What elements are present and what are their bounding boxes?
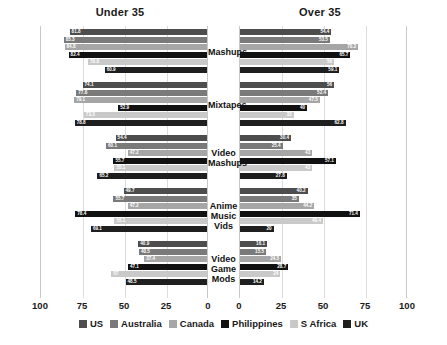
bar-us: 54.4 — [240, 29, 331, 35]
bar-group-mixtapes: 5652.447.5403262.8 — [240, 82, 406, 128]
bar-value-label: 44.2 — [303, 202, 312, 209]
chart-container: Under 35 Over 35 81.885.384.882.470.860.… — [0, 0, 447, 345]
axis-tick: 50 — [318, 300, 329, 311]
bar-value-label: 48.5 — [128, 278, 137, 285]
bar-row: 43 — [240, 165, 406, 171]
bar-value-label: 49.4 — [312, 217, 321, 224]
bar-value-label: 56 — [327, 58, 332, 65]
bar-philippines: 82.4 — [69, 52, 207, 58]
bar-row: 54.4 — [240, 29, 406, 35]
legend-label: Canada — [180, 318, 214, 329]
bar-australia: 60.1 — [106, 143, 207, 149]
bar-value-label: 70.8 — [90, 58, 99, 65]
bar-value-label: 81.8 — [72, 28, 81, 35]
bar-row: 60.1 — [41, 143, 207, 149]
bar-uk: 14.2 — [240, 279, 264, 285]
bar-australia: 52.4 — [240, 90, 328, 96]
bar-value-label: 53.5 — [319, 36, 328, 43]
bar-row: 52.9 — [41, 105, 207, 111]
bar-australia: 53.5 — [240, 37, 330, 43]
bar-s-africa: 43 — [240, 165, 312, 171]
bar-value-label: 49.7 — [126, 187, 135, 194]
bar-us: 74.1 — [83, 82, 207, 88]
bar-group-mixtapes: 74.177.879.152.973.378.8 — [41, 82, 207, 128]
bar-australia: 15.5 — [240, 249, 266, 255]
legend-item-australia[interactable]: Australia — [110, 318, 162, 329]
bar-row: 60.9 — [41, 67, 207, 73]
bar-australia: 35 — [240, 196, 299, 202]
bar-row: 55.7 — [41, 158, 207, 164]
bar-value-label: 24 — [273, 270, 278, 277]
bar-value-label: 32 — [287, 111, 292, 118]
bar-value-label: 62.8 — [335, 119, 344, 126]
bar-value-label: 14.2 — [253, 278, 262, 285]
legend-label: Australia — [121, 318, 162, 329]
bar-canada: 44.2 — [240, 203, 314, 209]
category-label-line: Mixtapes — [208, 100, 239, 110]
category-label-line: Video — [208, 148, 239, 158]
bar-value-label: 15.5 — [255, 248, 264, 255]
bar-s-africa: 49.4 — [240, 218, 323, 224]
bar-row: 20 — [240, 226, 406, 232]
category-label-line: Video Game — [208, 254, 239, 274]
bar-value-label: 55.7 — [115, 195, 124, 202]
legend-item-us[interactable]: US — [79, 318, 103, 329]
bar-philippines: 40 — [240, 105, 307, 111]
bar-row: 84.8 — [41, 44, 207, 50]
bar-row: 69.1 — [41, 226, 207, 232]
chart-legend: USAustraliaCanadaPhilippinesS AfricaUK — [0, 318, 447, 329]
bar-uk: 27.8 — [240, 173, 287, 179]
bar-row: 55.1 — [41, 165, 207, 171]
bar-canada: 47.2 — [128, 203, 207, 209]
legend-item-philippines[interactable]: Philippines — [221, 318, 283, 329]
bar-value-label: 52.9 — [120, 104, 129, 111]
bar-value-label: 74.1 — [85, 81, 94, 88]
bar-s-africa: 70.8 — [88, 59, 207, 65]
bar-value-label: 43 — [305, 164, 310, 171]
bar-value-label: 47.2 — [130, 149, 139, 156]
bar-row: 56 — [240, 82, 406, 88]
bar-row: 71.4 — [240, 211, 406, 217]
bar-uk: 20 — [240, 226, 274, 232]
bar-uk: 69.1 — [91, 226, 207, 232]
bar-group-mashups: 54.453.570.365.75659.1 — [240, 29, 406, 75]
axis-tick: 75 — [77, 300, 88, 311]
bar-row: 24.5 — [240, 256, 406, 262]
bar-uk: 78.8 — [75, 120, 207, 126]
bar-row: 32 — [240, 112, 406, 118]
bar-value-label: 40.5 — [141, 248, 150, 255]
axis-tick: 100 — [399, 300, 415, 311]
bar-canada: 43 — [240, 150, 312, 156]
bar-group-mashups: 81.885.384.882.470.860.9 — [41, 29, 207, 75]
bar-row: 27.8 — [240, 173, 406, 179]
bar-value-label: 69.1 — [93, 225, 102, 232]
bar-uk: 62.8 — [240, 120, 346, 126]
bar-us: 40.2 — [240, 188, 308, 194]
legend-item-uk[interactable]: UK — [343, 318, 368, 329]
bar-value-label: 37.4 — [146, 255, 155, 262]
bar-row: 70.3 — [240, 44, 406, 50]
bar-philippines: 57.1 — [240, 158, 336, 164]
bar-value-label: 40 — [300, 104, 305, 111]
legend-item-s-africa[interactable]: S Africa — [290, 318, 337, 329]
bar-australia: 40.5 — [139, 249, 207, 255]
bar-row: 85.3 — [41, 37, 207, 43]
bar-row: 44.2 — [240, 203, 406, 209]
bar-value-label: 82.4 — [71, 51, 80, 58]
bar-group-anime-music-vids: 49.755.747.278.455.169.1 — [41, 188, 207, 234]
bar-group-video-game-mods: 16.115.524.528.72414.2 — [240, 241, 406, 287]
bar-s-africa: 24 — [240, 271, 280, 277]
axis-tick: 50 — [119, 300, 130, 311]
bar-row: 48.5 — [41, 279, 207, 285]
bar-value-label: 60.9 — [107, 66, 116, 73]
bar-row: 52.4 — [240, 90, 406, 96]
bar-value-label: 54.4 — [118, 134, 127, 141]
bar-row: 57.1 — [240, 158, 406, 164]
category-label-line: Anime — [208, 201, 239, 211]
bar-group-video-mashups: 30.425.44357.14327.8 — [240, 135, 406, 181]
legend-item-canada[interactable]: Canada — [169, 318, 214, 329]
bar-value-label: 52.4 — [317, 89, 326, 96]
category-label-video-game-mods: Video GameMods — [208, 254, 239, 284]
bar-canada: 47.2 — [128, 150, 207, 156]
category-label-anime-music-vids: AnimeMusic Vids — [208, 201, 239, 231]
